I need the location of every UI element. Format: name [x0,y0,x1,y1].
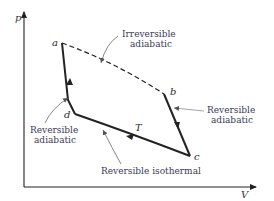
annotation-reversible-adiabatic-left-line2: adiabatic [34,135,76,145]
point-label-d: d [64,109,70,120]
annotation-irreversible-adiabatic-line1: Irreversible [122,29,176,39]
path-d-a-reversible-adiabatic [62,43,75,114]
annotation-reversible-adiabatic-left-line1: Reversible [30,125,78,135]
pv-diagram: p V a b c d T Irreversible adiabatic Rev… [0,0,274,201]
point-label-a: a [52,37,58,48]
annotation-reversible-adiabatic-right-line2: adiabatic [211,115,253,125]
annotation-reversible-isothermal: Reversible isothermal [101,166,201,176]
y-axis-label: p [15,12,22,23]
point-label-c: c [194,151,200,162]
leader-line-reversible-right [174,108,204,111]
x-axis-label: V [241,189,250,200]
leader-line-isothermal [103,130,121,164]
point-label-b: b [170,86,176,97]
annotation-irreversible-adiabatic-line2: adiabatic [130,39,172,49]
direction-arrow-icon [126,134,134,140]
path-a-b-irreversible-adiabatic [62,43,164,94]
annotation-reversible-adiabatic-right-line1: Reversible [207,105,255,115]
isotherm-label: T [135,122,143,133]
leader-line-irreversible [101,36,118,63]
